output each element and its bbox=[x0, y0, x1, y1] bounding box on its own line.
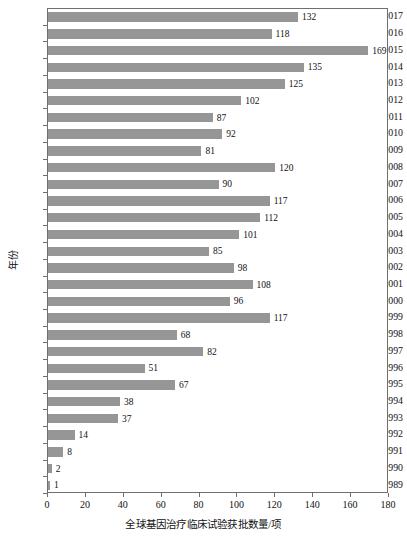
bar-row: 125 bbox=[48, 76, 387, 93]
bar-row: 132 bbox=[48, 9, 387, 26]
bar-value-label: 1 bbox=[54, 477, 59, 493]
bar bbox=[48, 430, 75, 439]
bar-row: 92 bbox=[48, 126, 387, 143]
bar-row: 14 bbox=[48, 427, 387, 444]
bar-value-label: 92 bbox=[226, 126, 236, 142]
bar bbox=[48, 481, 50, 490]
bar bbox=[48, 12, 298, 21]
x-axis-tick-label: 20 bbox=[65, 499, 105, 510]
bar-value-label: 67 bbox=[179, 377, 189, 393]
x-axis-title: 全球基因治疗临床试验获批数量/项 bbox=[0, 516, 407, 531]
x-axis-tick-mark bbox=[199, 493, 200, 497]
x-axis-tick-label: 180 bbox=[368, 499, 407, 510]
bar-row: 1 bbox=[48, 477, 387, 494]
x-axis-tick-mark bbox=[85, 493, 86, 497]
bar bbox=[48, 330, 177, 339]
bar-value-label: 8 bbox=[67, 444, 72, 460]
bar-row: 117 bbox=[48, 193, 387, 210]
bar-row: 98 bbox=[48, 260, 387, 277]
bar-value-label: 132 bbox=[302, 9, 316, 25]
bar-value-label: 120 bbox=[279, 160, 293, 176]
bar bbox=[48, 163, 275, 172]
bar-value-label: 37 bbox=[122, 411, 132, 427]
bar bbox=[48, 414, 118, 423]
bar bbox=[48, 364, 145, 373]
x-axis-tick-mark bbox=[274, 493, 275, 497]
bar-row: 87 bbox=[48, 109, 387, 126]
bar bbox=[48, 213, 260, 222]
bar-row: 38 bbox=[48, 394, 387, 411]
x-axis-tick-mark bbox=[123, 493, 124, 497]
x-axis-tick-label: 140 bbox=[292, 499, 332, 510]
bar-value-label: 98 bbox=[238, 260, 248, 276]
bar bbox=[48, 447, 63, 456]
bar bbox=[48, 196, 270, 205]
bar-row: 67 bbox=[48, 377, 387, 394]
bar-row: 90 bbox=[48, 176, 387, 193]
bar bbox=[48, 146, 201, 155]
bar bbox=[48, 263, 234, 272]
bars-layer: 1321181691351251028792811209011711210185… bbox=[48, 9, 387, 492]
bar-value-label: 135 bbox=[308, 59, 322, 75]
bar-row: 82 bbox=[48, 343, 387, 360]
bar bbox=[48, 280, 253, 289]
bar bbox=[48, 380, 175, 389]
bar-row: 81 bbox=[48, 143, 387, 160]
x-axis-tick-label: 40 bbox=[103, 499, 143, 510]
bar bbox=[48, 113, 213, 122]
bar-value-label: 14 bbox=[79, 427, 89, 443]
bar-value-label: 96 bbox=[234, 293, 244, 309]
bar-value-label: 102 bbox=[245, 93, 259, 109]
bar-value-label: 117 bbox=[274, 193, 288, 209]
x-axis-tick-mark bbox=[388, 493, 389, 497]
bar bbox=[48, 464, 52, 473]
x-axis-tick-mark bbox=[312, 493, 313, 497]
bar-row: 117 bbox=[48, 310, 387, 327]
y-axis-title: 年份 bbox=[5, 240, 20, 280]
bar-value-label: 112 bbox=[264, 210, 278, 226]
bar bbox=[48, 230, 239, 239]
x-axis-tick-mark bbox=[161, 493, 162, 497]
bar-value-label: 101 bbox=[243, 227, 257, 243]
bar bbox=[48, 29, 272, 38]
bar-value-label: 125 bbox=[289, 76, 303, 92]
bar-row: 108 bbox=[48, 277, 387, 294]
bar-row: 118 bbox=[48, 26, 387, 43]
x-axis-tick-mark bbox=[47, 493, 48, 497]
bar-value-label: 169 bbox=[372, 43, 386, 59]
x-axis-tick-label: 100 bbox=[216, 499, 256, 510]
bar-chart: 年份 2017201620152014201320122011201020092… bbox=[0, 0, 407, 537]
x-axis-tick-mark bbox=[350, 493, 351, 497]
bar-row: 120 bbox=[48, 160, 387, 177]
bar-value-label: 81 bbox=[205, 143, 215, 159]
bar bbox=[48, 297, 230, 306]
bar-row: 101 bbox=[48, 226, 387, 243]
bar bbox=[48, 96, 241, 105]
bar-value-label: 117 bbox=[274, 310, 288, 326]
bar-row: 68 bbox=[48, 327, 387, 344]
bar-value-label: 85 bbox=[213, 243, 223, 259]
bar-value-label: 38 bbox=[124, 394, 134, 410]
bar bbox=[48, 180, 219, 189]
bar-row: 85 bbox=[48, 243, 387, 260]
bar bbox=[48, 79, 285, 88]
x-axis-tick-label: 120 bbox=[254, 499, 294, 510]
x-axis-tick-mark bbox=[236, 493, 237, 497]
bar bbox=[48, 129, 222, 138]
bar bbox=[48, 347, 203, 356]
bar-row: 2 bbox=[48, 461, 387, 478]
bar-row: 112 bbox=[48, 210, 387, 227]
bar-value-label: 118 bbox=[276, 26, 290, 42]
bar-value-label: 90 bbox=[223, 176, 233, 192]
bar-row: 96 bbox=[48, 293, 387, 310]
bar-value-label: 51 bbox=[149, 360, 159, 376]
bar-row: 37 bbox=[48, 410, 387, 427]
plot-area: 1321181691351251028792811209011711210185… bbox=[47, 8, 388, 493]
bar bbox=[48, 247, 209, 256]
bar-value-label: 82 bbox=[207, 344, 217, 360]
bar-value-label: 87 bbox=[217, 110, 227, 126]
bar bbox=[48, 46, 368, 55]
bar-value-label: 68 bbox=[181, 327, 191, 343]
bar-row: 8 bbox=[48, 444, 387, 461]
x-axis-tick-label: 80 bbox=[179, 499, 219, 510]
